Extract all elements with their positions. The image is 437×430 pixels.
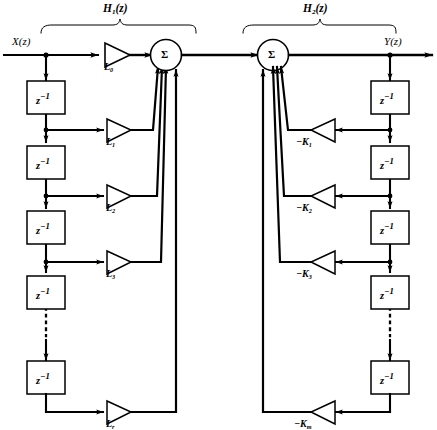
gain-label-L0: L0 bbox=[104, 62, 113, 73]
delay-label-left-3: z−1 bbox=[36, 222, 50, 236]
gain-triangle-K3 bbox=[311, 251, 335, 274]
gain-triangle-K1 bbox=[311, 119, 335, 142]
gain-label-Km: −Km bbox=[294, 419, 312, 430]
section-label-h2: H2(z) bbox=[303, 3, 328, 16]
adder-symbol-left: Σ bbox=[161, 49, 168, 60]
delay-label-right-1: z−1 bbox=[380, 92, 394, 106]
delay-label-left-2: z−1 bbox=[36, 157, 50, 171]
delay-label-right-2: z−1 bbox=[380, 157, 394, 171]
gain-label-L3: L3 bbox=[106, 269, 115, 280]
delay-label-left-4: z−1 bbox=[36, 287, 50, 301]
gain-label-K2: −K2 bbox=[296, 203, 312, 214]
K1-to-adder-line bbox=[281, 67, 311, 130]
brace-h1 bbox=[41, 19, 196, 33]
diagram-canvas bbox=[0, 0, 437, 430]
brace-h2 bbox=[243, 19, 396, 33]
gain-label-L2: L2 bbox=[106, 203, 115, 214]
delay-label-right-4: z−1 bbox=[380, 287, 394, 301]
delay-label-right-5: z−1 bbox=[380, 372, 394, 386]
input-label: X(z) bbox=[12, 36, 30, 47]
filter-block-diagram: H1(z) H2(z) X(z) Y(z) Σ Σ z−1 z−1 z−1 z−… bbox=[0, 0, 437, 430]
gain-triangle-K2 bbox=[311, 185, 335, 208]
gain-label-K3: −K3 bbox=[296, 269, 312, 280]
delay-label-left-5: z−1 bbox=[36, 372, 50, 386]
output-label: Y(z) bbox=[384, 36, 402, 47]
delay-label-left-1: z−1 bbox=[36, 92, 50, 106]
section-label-h1: H1(z) bbox=[103, 3, 128, 16]
delay-label-right-3: z−1 bbox=[380, 222, 394, 236]
adder-symbol-right: Σ bbox=[268, 49, 275, 60]
gain-label-K1: −K1 bbox=[296, 137, 312, 148]
gain-label-Lr: Lr bbox=[106, 419, 115, 430]
L1-to-adder-line bbox=[131, 67, 158, 130]
gain-triangle-Km bbox=[311, 401, 335, 424]
gain-label-L1: L1 bbox=[106, 137, 115, 148]
